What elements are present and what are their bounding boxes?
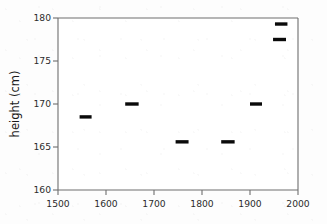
x-tick-label-1700: 1700	[142, 198, 166, 209]
y-axis-ticks: 160 165 170 175 180	[33, 12, 58, 195]
y-axis-title: height (cm)	[8, 71, 22, 138]
x-tick-label-2000: 2000	[286, 198, 310, 209]
y-tick-label-170: 170	[33, 98, 51, 109]
x-tick-label-1600: 1600	[94, 198, 118, 209]
y-tick-label-160: 160	[33, 184, 51, 195]
x-tick-label-1900: 1900	[238, 198, 262, 209]
y-tick-label-175: 175	[33, 55, 51, 66]
y-tick-label-165: 165	[33, 141, 51, 152]
height-over-time-chart: 160 165 170 175 180 1500 1600 1700 1800 …	[0, 0, 327, 224]
x-tick-label-1500: 1500	[46, 198, 70, 209]
x-axis-ticks: 1500 1600 1700 1800 1900 2000	[46, 190, 310, 209]
chart-container: 160 165 170 175 180 1500 1600 1700 1800 …	[0, 0, 327, 224]
y-tick-label-180: 180	[33, 12, 51, 23]
x-tick-label-1800: 1800	[190, 198, 214, 209]
